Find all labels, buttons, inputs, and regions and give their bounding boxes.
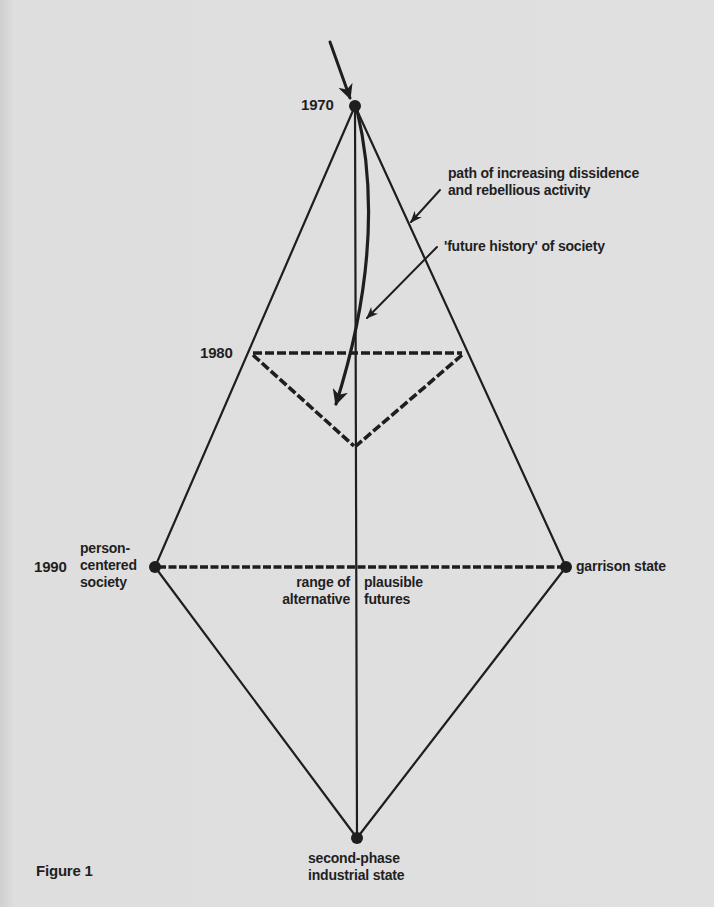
futures-diagram: [0, 0, 714, 907]
person-centered-line1: person-: [80, 540, 137, 557]
dashed-v-right: [356, 355, 462, 446]
second-phase-label: second-phase industrial state: [308, 850, 404, 884]
person-centered-line3: society: [80, 574, 137, 591]
range-label-left: range of alternative: [270, 574, 350, 608]
future-history-label: 'future history' of society: [444, 238, 605, 255]
dashed-v-left: [253, 355, 354, 446]
garrison-state-label: garrison state: [576, 558, 666, 575]
dissidence-label: path of increasing dissidence and rebell…: [448, 165, 639, 199]
book-page: 1970 1980 1990 path of increasing dissid…: [0, 0, 714, 907]
second-phase-line1: second-phase: [308, 850, 404, 867]
future-history-callout-arrow: [367, 247, 437, 318]
range-right-line2: futures: [364, 591, 423, 608]
node-second-phase: [351, 832, 363, 844]
dissidence-label-line2: and rebellious activity: [448, 182, 639, 199]
entry-arrow: [330, 42, 350, 98]
person-centered-line2: centered: [80, 557, 137, 574]
second-phase-line2: industrial state: [308, 867, 404, 884]
range-right-line1: plausible: [364, 574, 423, 591]
year-label-1980: 1980: [200, 344, 233, 361]
node-garrison-state: [560, 561, 572, 573]
year-label-1990: 1990: [34, 558, 67, 575]
person-centered-label: person- centered society: [80, 540, 137, 591]
year-label-1970: 1970: [301, 96, 334, 113]
node-1970: [349, 100, 361, 112]
dissidence-callout-arrow: [411, 190, 440, 222]
range-left-line2: alternative: [270, 591, 350, 608]
node-person-centered: [149, 561, 161, 573]
future-history-curve: [336, 110, 369, 404]
range-label-right: plausible futures: [364, 574, 423, 608]
outer-edge-left-upper: [155, 106, 355, 567]
range-left-line1: range of: [270, 574, 350, 591]
center-axis: [355, 106, 357, 838]
dissidence-label-line1: path of increasing dissidence: [448, 165, 639, 182]
figure-caption: Figure 1: [36, 862, 93, 879]
